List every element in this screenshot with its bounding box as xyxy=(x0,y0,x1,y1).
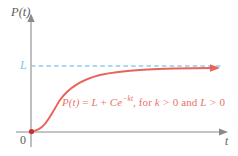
equation-lhs: P(t) xyxy=(62,96,80,108)
y-axis xyxy=(27,14,34,148)
graph-canvas xyxy=(0,0,238,156)
x-axis-label: t xyxy=(225,136,228,148)
origin-label: 0 xyxy=(20,134,26,146)
y-axis-label: P(t) xyxy=(11,6,30,19)
equation-exponent: −kt xyxy=(122,94,133,103)
equation-condition-L: L xyxy=(200,96,206,108)
equation-equals: = xyxy=(80,96,92,108)
equation-condition-L-relation: > xyxy=(207,96,220,108)
equation-condition-k-relation: > xyxy=(160,96,173,108)
x-axis xyxy=(16,128,228,135)
origin-point-marker xyxy=(29,129,34,134)
equation-condition-prefix: , for xyxy=(133,96,155,108)
equation-condition-L-value: 0 xyxy=(220,96,226,108)
equation-coefficient: Ce xyxy=(110,96,122,108)
exponential-approach-figure: P(t) t 0 L P(t) = L + Ce−kt, for k > 0 a… xyxy=(0,0,238,156)
asymptote-label: L xyxy=(20,59,27,71)
equation-condition-join: and xyxy=(178,96,200,108)
equation-annotation: P(t) = L + Ce−kt, for k > 0 and L > 0 xyxy=(62,96,225,108)
equation-plus: + xyxy=(98,96,110,108)
